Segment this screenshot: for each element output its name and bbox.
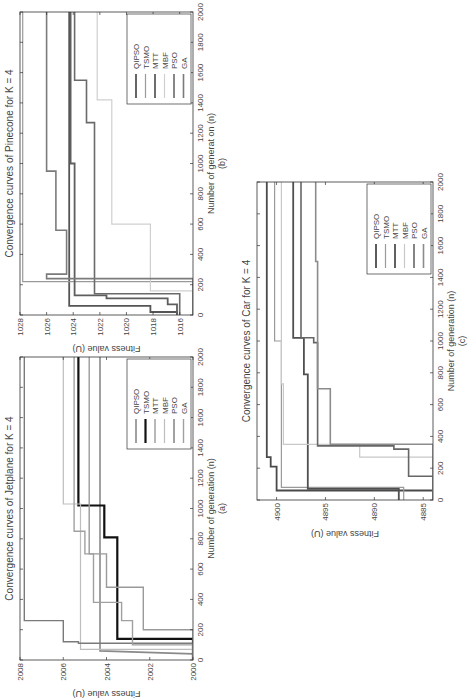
x-tick-label: 800 <box>436 366 445 380</box>
y-tick-label: 1016 <box>176 317 185 335</box>
x-tick-label: 2000 <box>436 173 445 191</box>
x-tick-label: 1800 <box>196 378 205 396</box>
x-tick-label: 2000 <box>196 3 205 21</box>
legend: QIPSOTSMOMTTMBFPSOGA <box>127 14 191 104</box>
x-tick-label: 1800 <box>196 33 205 51</box>
chart-title: Convergence curves of Pinecone for K = 4 <box>4 69 15 258</box>
legend-item: QIPSO <box>132 389 141 414</box>
y-tick-label: 4900 <box>273 502 282 520</box>
x-axis-label: Number of generation (n) <box>446 291 456 392</box>
x-tick-label: 200 <box>196 277 205 291</box>
x-tick-label: 800 <box>196 532 205 546</box>
car-chart-panel: Convergence curves of Car for K = 402004… <box>237 170 475 540</box>
legend-item: PSO <box>170 52 179 69</box>
y-tick-label: 2006 <box>59 662 68 680</box>
x-tick-label: 0 <box>436 497 445 502</box>
subplot-label: (b) <box>217 158 227 169</box>
x-tick-label: 1400 <box>196 438 205 456</box>
x-axis-label: Number of generat on (n) <box>206 113 216 214</box>
x-tick-label: 1400 <box>436 268 445 286</box>
x-tick-label: 0 <box>196 657 205 662</box>
y-tick-label: 2008 <box>16 662 25 680</box>
pinecone-chart: Convergence curves of Pinecone for K = 4… <box>0 0 235 355</box>
y-tick-label: 1024 <box>69 317 78 335</box>
legend-item: MBF <box>161 397 170 414</box>
legend-item: MBF <box>401 222 410 239</box>
legend-item: TSMO <box>382 216 391 239</box>
y-axis-label: Fitness value (U) <box>72 344 140 354</box>
x-tick-label: 1200 <box>196 469 205 487</box>
legend-item: TSMO <box>142 391 151 414</box>
x-tick-label: 1000 <box>436 332 445 350</box>
y-tick-label: 1022 <box>96 317 105 335</box>
x-tick-label: 1200 <box>196 124 205 142</box>
x-tick-label: 600 <box>436 397 445 411</box>
y-tick-label: 1018 <box>149 317 158 335</box>
x-tick-label: 0 <box>196 312 205 317</box>
chart-title: Convergence curves of Car for K = 4 <box>241 259 252 422</box>
y-axis-label: Fitness value (U) <box>72 689 140 699</box>
legend-item: GA <box>180 57 189 69</box>
legend: QIPSOTSMOMTTMBFPSOGA <box>367 184 431 274</box>
legend-item: TSMO <box>142 46 151 69</box>
jetplane-chart: Convergence curves of Jetplane for K = 4… <box>0 345 235 700</box>
x-axis-label: Number of generation (n) <box>206 458 216 559</box>
y-tick-label: 1026 <box>43 317 52 335</box>
x-tick-label: 1600 <box>436 236 445 254</box>
legend: QIPSOTSMOMTTMBFPSOGA <box>127 359 191 449</box>
x-tick-label: 800 <box>196 187 205 201</box>
y-tick-label: 1020 <box>122 317 131 335</box>
pinecone-chart-panel: Convergence curves of Pinecone for K = 4… <box>0 0 235 355</box>
x-tick-label: 1400 <box>196 93 205 111</box>
legend-item: GA <box>180 402 189 414</box>
legend-item: MTT <box>391 222 400 239</box>
x-tick-label: 1600 <box>196 408 205 426</box>
y-tick-label: 4890 <box>370 502 379 520</box>
x-tick-label: 400 <box>436 429 445 443</box>
y-tick-label: 1028 <box>16 317 25 335</box>
x-tick-label: 200 <box>196 622 205 636</box>
x-tick-label: 400 <box>196 592 205 606</box>
y-tick-label: 2002 <box>146 662 155 680</box>
x-tick-label: 600 <box>196 562 205 576</box>
x-tick-label: 400 <box>196 247 205 261</box>
legend-item: PSO <box>410 222 419 239</box>
jetplane-chart-panel: Convergence curves of Jetplane for K = 4… <box>0 345 235 700</box>
legend-item: QIPSO <box>372 214 381 239</box>
x-tick-label: 1600 <box>196 63 205 81</box>
subplot-label: (c) <box>457 336 467 347</box>
x-tick-label: 1000 <box>196 154 205 172</box>
chart-title: Convergence curves of Jetplane for K = 4 <box>4 416 15 601</box>
subplot-label: (a) <box>217 503 227 514</box>
x-tick-label: 1200 <box>436 300 445 318</box>
car-chart: Convergence curves of Car for K = 402004… <box>237 170 475 540</box>
x-tick-label: 600 <box>196 217 205 231</box>
legend-item: MBF <box>161 52 170 69</box>
legend-item: GA <box>420 227 429 239</box>
legend-item: MTT <box>151 52 160 69</box>
y-tick-label: 4885 <box>419 502 428 520</box>
x-tick-label: 1000 <box>196 499 205 517</box>
y-axis-label: Fitness value (U) <box>311 529 379 539</box>
y-tick-label: 2000 <box>189 662 198 680</box>
legend-item: MTT <box>151 397 160 414</box>
y-tick-label: 4895 <box>321 502 330 520</box>
x-tick-label: 1800 <box>436 204 445 222</box>
y-tick-label: 2004 <box>103 662 112 680</box>
x-tick-label: 200 <box>436 461 445 475</box>
legend-item: QIPSO <box>132 44 141 69</box>
legend-item: PSO <box>170 397 179 414</box>
